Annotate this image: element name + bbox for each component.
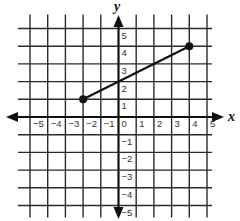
x-tick-label: 1 [139,118,144,129]
x-tick-label: 4 [192,118,197,129]
y-tick-label: 2 [122,83,127,94]
x-tick-label: −5 [33,118,44,129]
x-tick-label: −1 [104,118,115,129]
x-tick-labels: −5−4−3−2−1012345 [33,118,215,129]
y-tick-label: −1 [122,136,133,147]
y-axis-label: y [112,0,121,14]
x-axis-arrow-left-icon [6,112,18,122]
x-tick-label: −3 [68,118,79,129]
y-tick-label: −4 [122,189,133,200]
x-tick-label: 0 [122,118,127,129]
y-tick-label: −3 [122,171,133,182]
x-tick-label: −2 [86,118,97,129]
y-tick-label: 3 [122,65,127,76]
y-tick-label: 5 [122,30,127,41]
x-tick-label: 2 [157,118,162,129]
x-tick-label: 5 [210,118,215,129]
y-tick-label: −2 [122,153,133,164]
x-tick-label: 3 [175,118,180,129]
x-tick-label: −4 [51,118,62,129]
endpoint-dot [79,95,87,103]
y-tick-label: 4 [122,47,127,58]
endpoint-dot [185,42,193,50]
x-axis-label: x [227,109,235,124]
y-tick-label: −5 [122,207,133,218]
coordinate-plane: −5−4−3−2−1012345 −5−4−3−2−112345 x y [0,0,240,221]
y-axis-arrow-up-icon [114,15,124,27]
y-tick-label: 1 [122,100,127,111]
